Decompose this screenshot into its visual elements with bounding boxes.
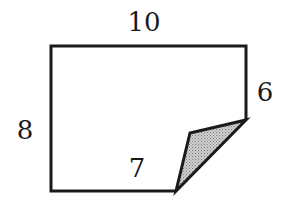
label-bottom: 7 — [129, 153, 146, 183]
rectangle-outline — [51, 46, 246, 191]
folded-rectangle-figure: 10 8 6 7 — [0, 0, 293, 206]
folded-corner-flap — [176, 120, 246, 191]
label-left: 8 — [17, 115, 34, 145]
diagram-canvas: 10 8 6 7 — [0, 0, 293, 206]
label-top: 10 — [127, 7, 160, 37]
label-right: 6 — [257, 77, 274, 107]
